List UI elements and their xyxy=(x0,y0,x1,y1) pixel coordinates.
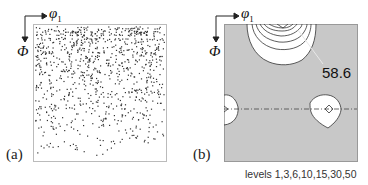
panel-label-b: (b) xyxy=(193,147,211,162)
contour-levels-caption: levels 1,3,6,10,15,30,50 xyxy=(245,169,357,180)
panel-a-scatter: φ1 Φ (a) xyxy=(0,0,184,185)
panel-label-a: (a) xyxy=(6,147,23,162)
y-axis-label: Φ xyxy=(17,44,28,59)
y-axis-label: Φ xyxy=(209,44,220,59)
x-axis-label: φ1 xyxy=(49,6,62,24)
x-axis-label: φ1 xyxy=(241,6,254,24)
max-value-label: 58.6 xyxy=(322,65,351,80)
contour-plot xyxy=(184,0,368,185)
scatter-plot xyxy=(0,0,184,185)
panel-b-contour: φ1 Φ 58.6 (b) levels 1,3,6,10,15,30,50 xyxy=(184,0,368,185)
